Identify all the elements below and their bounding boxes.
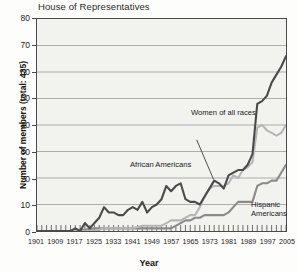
y-tick-mark [32,232,36,233]
y-tick-label: 10 [4,200,30,210]
x-tick-label: 2005 [279,237,295,246]
annotation-pointers [197,140,214,180]
x-tick-label: 1925 [86,237,102,246]
y-tick-label: 50 [4,93,30,103]
x-tick-label: 1909 [47,237,63,246]
annotation-hispanic-line1: Hispanic [251,200,280,209]
y-tick-label: 80 [4,13,30,23]
x-tick-label: 1901 [28,237,44,246]
african-americans-pointer [197,140,214,180]
x-tick-label: 1933 [105,237,121,246]
x-axis-title: Year [0,258,298,268]
x-tick-label: 1949 [144,237,160,246]
y-axis: 01020304050607080 [0,0,36,273]
chart-title: House of Representatives [38,1,150,12]
y-tick-label: 20 [4,174,30,184]
chart-container: House of Representatives Number of membe… [0,0,298,273]
x-tick-label: 1997 [260,237,276,246]
annotation-hispanic-americans: Hispanic Americans [251,200,295,218]
x-axis-tick-labels: 1901190919171925193319411949195719651973… [0,235,298,249]
plot-svg [37,19,286,231]
y-tick-label: 60 [4,67,30,77]
annotation-women: Women of all races [191,108,256,117]
x-tick-label: 1957 [163,237,179,246]
y-tick-label: 30 [4,147,30,157]
x-tick-label: 1973 [202,237,218,246]
annotation-hispanic-line2: Americans [251,209,287,218]
x-tick-label: 1965 [182,237,198,246]
x-tick-label: 1917 [67,237,83,246]
y-tick-label: 70 [4,40,30,50]
gridlines [37,46,286,205]
x-tick-label: 1981 [221,237,237,246]
y-tick-label: 40 [4,120,30,130]
annotation-african-americans: African Americans [130,160,191,169]
x-tick-label: 1989 [240,237,256,246]
x-tick-label: 1941 [125,237,141,246]
plot-area [36,18,287,232]
